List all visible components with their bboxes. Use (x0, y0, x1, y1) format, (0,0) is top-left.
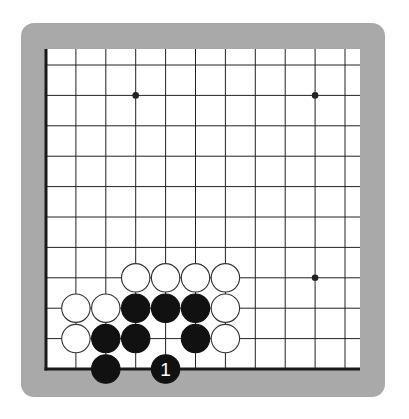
white-stone[interactable] (151, 264, 179, 292)
stone-body (92, 324, 120, 352)
white-stone[interactable] (92, 294, 120, 322)
white-stone[interactable] (122, 264, 150, 292)
stone-body (92, 355, 120, 383)
stone-body (151, 294, 179, 322)
white-stone[interactable] (211, 294, 239, 322)
star-point-icon (312, 275, 319, 282)
white-stone[interactable] (211, 264, 239, 292)
stone-body (211, 324, 239, 352)
stone-body (181, 294, 209, 322)
star-point-icon (312, 92, 319, 99)
white-stone[interactable] (62, 324, 90, 352)
stone-body (122, 294, 150, 322)
black-stone[interactable] (151, 294, 179, 322)
stone-body (122, 264, 150, 292)
stone-body (62, 294, 90, 322)
move-number-label: 1 (160, 359, 171, 380)
white-stone[interactable] (62, 294, 90, 322)
black-stone[interactable] (122, 294, 150, 322)
stone-body (211, 294, 239, 322)
black-stone[interactable] (181, 324, 209, 352)
black-stone[interactable] (92, 355, 120, 383)
white-stone[interactable] (181, 264, 209, 292)
black-stone[interactable]: 1 (151, 355, 179, 383)
black-stone[interactable] (181, 294, 209, 322)
stone-body (181, 324, 209, 352)
black-stone[interactable] (92, 324, 120, 352)
stone-body (151, 264, 179, 292)
stone-body (181, 264, 209, 292)
stone-body (122, 324, 150, 352)
stone-body (62, 324, 90, 352)
black-stone[interactable] (122, 324, 150, 352)
white-stone[interactable] (211, 324, 239, 352)
go-board[interactable]: 1 (0, 0, 409, 419)
stone-body (92, 294, 120, 322)
star-point-icon (132, 92, 139, 99)
stone-body (211, 264, 239, 292)
